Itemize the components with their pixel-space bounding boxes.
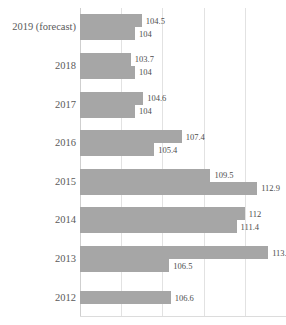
bar-row: 105.4 [80,143,286,156]
bar[interactable] [80,66,135,79]
bar-chart: 2019 (forecast)2018201720162015201420132… [0,0,286,325]
bar-row: 106.6 [80,291,286,304]
bar-row: 109.5 [80,169,286,182]
bar[interactable] [80,105,135,118]
bar-row: 107.4 [80,130,286,143]
bar-value-label: 112.9 [261,184,280,193]
bar-row: 104 [80,27,286,40]
bar[interactable] [80,246,268,259]
bar-row: 113.7 [80,246,286,259]
category-label: 2018 [0,61,76,72]
bar[interactable] [80,169,210,182]
bar-value-label: 111.4 [241,223,260,232]
bar-value-label: 104.5 [146,17,165,26]
bar-groups: 104.5104103.7104104.6104107.4105.4109.51… [80,8,286,317]
bar-value-label: 113.7 [272,248,286,257]
bar[interactable] [80,92,143,105]
bar[interactable] [80,14,142,27]
bar-row: 104 [80,105,286,118]
category-label: 2012 [0,293,76,304]
category-label: 2014 [0,215,76,226]
bar[interactable] [80,182,257,195]
bar-group: 103.7104 [80,53,286,79]
category-label: 2016 [0,138,76,149]
bar-group: 104.5104 [80,14,286,40]
bar-row: 112.9 [80,182,286,195]
bar-group: 109.5112.9 [80,169,286,195]
bar-value-label: 104 [139,107,152,116]
bar-row: 103.7 [80,53,286,66]
bar-row: 112 [80,207,286,220]
bar-group: 107.4105.4 [80,130,286,156]
category-label: 2017 [0,100,76,111]
bar[interactable] [80,207,245,220]
bar[interactable] [80,53,131,66]
bar-value-label: 103.7 [135,55,154,64]
bar[interactable] [80,291,171,304]
plot-area: 104.5104103.7104104.6104107.4105.4109.51… [80,8,286,317]
category-axis-labels: 2019 (forecast)2018201720162015201420132… [0,8,76,317]
bar-group: 106.6 [80,291,286,304]
bar[interactable] [80,130,182,143]
bar-value-label: 104 [139,30,152,39]
bar-value-label: 104 [139,68,152,77]
bar-value-label: 105.4 [158,145,177,154]
bar-group: 104.6104 [80,92,286,118]
bar-row: 111.4 [80,220,286,233]
bar-row: 104 [80,66,286,79]
bar[interactable] [80,27,135,40]
bar[interactable] [80,259,169,272]
bar-value-label: 104.6 [147,94,166,103]
category-label: 2015 [0,177,76,188]
category-label: 2019 (forecast) [0,22,76,33]
category-label: 2013 [0,254,76,265]
bar-value-label: 109.5 [214,171,233,180]
bar[interactable] [80,220,237,233]
bar-value-label: 106.5 [173,261,192,270]
bar-value-label: 112 [249,210,261,219]
bar-group: 112111.4 [80,207,286,233]
bar-value-label: 107.4 [186,132,205,141]
bar-row: 104.6 [80,92,286,105]
bar[interactable] [80,143,154,156]
bar-row: 104.5 [80,14,286,27]
bar-value-label: 106.6 [175,293,194,302]
bar-row: 106.5 [80,259,286,272]
bar-group: 113.7106.5 [80,246,286,272]
